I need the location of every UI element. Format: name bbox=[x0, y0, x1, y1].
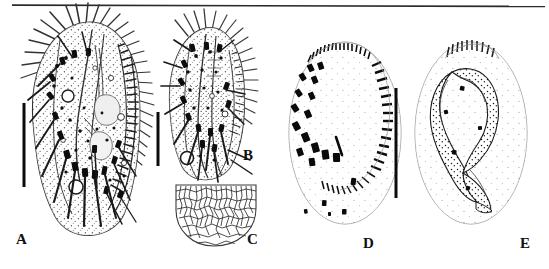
panel-d-drawing bbox=[289, 42, 401, 224]
panel-a-drawing bbox=[21, 3, 154, 248]
panel-label-b: B bbox=[243, 148, 253, 163]
panel-e-drawing bbox=[415, 40, 527, 224]
top-rule bbox=[12, 5, 545, 6]
panel-label-d: D bbox=[363, 236, 374, 251]
panel-label-e: E bbox=[520, 236, 530, 251]
figure-canvas bbox=[0, 0, 549, 269]
panel-c-outline bbox=[176, 185, 256, 246]
figure-plate: A B C D E bbox=[0, 0, 549, 269]
panel-label-a: A bbox=[16, 232, 27, 247]
panel-b-drawing bbox=[161, 9, 258, 192]
panel-c-drawing bbox=[176, 185, 256, 246]
panel-label-c: C bbox=[247, 232, 258, 247]
